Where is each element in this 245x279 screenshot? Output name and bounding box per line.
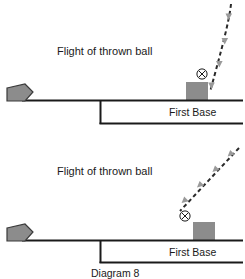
diagram-svg: Flight of thrown ball [0,0,245,279]
bottom-first-base-bag [193,222,215,240]
bottom-flight-label: Flight of thrown ball [57,165,152,177]
top-flight-label: Flight of thrown ball [57,45,152,57]
top-first-base-label: First Base [169,106,216,118]
figure-caption: Diagram 8 [91,267,140,279]
diagram-figure: Flight of thrown ball [0,0,245,279]
top-first-base-bag [186,82,208,100]
top-ball-marker [197,69,207,79]
bottom-first-base-label: First Base [169,246,216,258]
bottom-ball-marker [180,211,190,221]
